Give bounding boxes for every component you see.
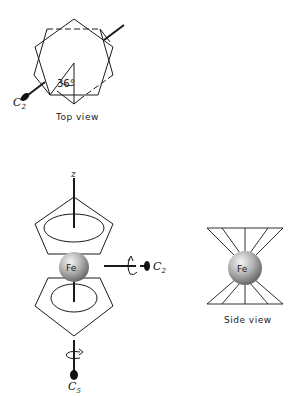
c2-axis [28,82,45,95]
c2-axis-end-icon [144,261,150,271]
top-view [28,19,124,104]
top-view-caption: Top view [55,112,99,122]
angle-label: 36° [57,78,75,89]
fe-label: Fe [66,263,77,273]
ferrocene-diagram: 36° C2 Top view Fe z C2 C5 [0,0,298,396]
z-axis-label: z [70,169,76,179]
sandwich-view [35,178,148,372]
c2-axis [104,25,124,40]
fe-label: Fe [237,264,248,274]
sandwich-c2-label: C2 [153,260,166,275]
c5-label: C5 [68,380,81,395]
side-view-caption: Side view [224,315,272,325]
c5-axis-end-icon [70,370,78,380]
